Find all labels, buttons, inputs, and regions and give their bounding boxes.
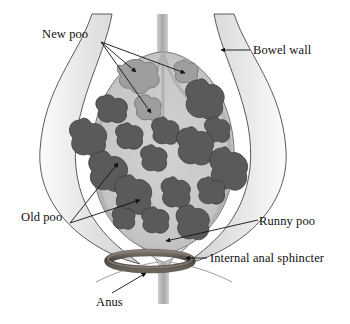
- label-internal-anal-sphincter: Internal anal sphincter: [210, 251, 324, 266]
- old-poo-4: [116, 123, 144, 150]
- new-poo-mass-2: [174, 60, 198, 83]
- leader-anus: [112, 273, 146, 293]
- diagram-page: New poo Bowel wall Old poo Runny poo Int…: [0, 0, 350, 324]
- old-poo-14: [142, 207, 169, 233]
- label-runny-poo: Runny poo: [259, 214, 315, 229]
- old-poo-9: [141, 145, 168, 172]
- label-old-poo: Old poo: [21, 210, 62, 225]
- label-new-poo: New poo: [42, 27, 88, 42]
- new-poo-mass-3: [135, 95, 162, 121]
- old-poo-2: [186, 79, 225, 120]
- label-bowel-wall: Bowel wall: [253, 43, 311, 58]
- label-anus: Anus: [96, 295, 123, 310]
- internal-anal-sphincter-ring: [108, 251, 192, 270]
